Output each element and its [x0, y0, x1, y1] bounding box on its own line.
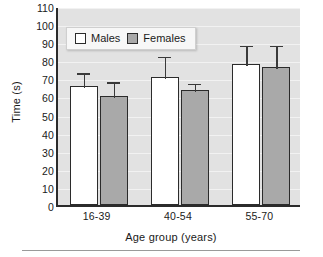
error-bar-cap	[240, 46, 253, 48]
y-tick-label: 40	[16, 130, 54, 140]
y-tick-label: 70	[16, 75, 54, 85]
legend-label-females: Females	[143, 32, 185, 44]
y-tick-label: 10	[16, 184, 54, 194]
bar-females-16-39	[100, 96, 128, 205]
y-tick-label: 50	[16, 112, 54, 122]
error-bar-cap	[270, 46, 283, 48]
error-bar-cap	[107, 82, 120, 84]
y-tick-label: 20	[16, 166, 54, 176]
error-bar-cap	[77, 73, 90, 75]
bar-chart-figure: Time (s) 0102030405060708090100110 16-39…	[0, 0, 323, 257]
error-bar-cap	[158, 57, 171, 59]
y-tick-label: 100	[16, 21, 54, 31]
white-square-icon	[75, 33, 86, 44]
error-bar-line	[246, 46, 248, 66]
error-bar-line	[114, 82, 116, 98]
legend-label-males: Males	[91, 32, 120, 44]
y-tick-label: 80	[16, 57, 54, 67]
y-tick-label: 0	[16, 202, 54, 212]
bar-females-55-70	[262, 67, 290, 205]
x-axis-tick-labels: 16-3940-5455-70	[56, 210, 300, 226]
y-tick-label: 30	[16, 148, 54, 158]
legend-item-males: Males	[75, 32, 120, 44]
footer-divider	[22, 250, 300, 251]
x-axis-title: Age group (years)	[40, 231, 302, 243]
error-bar-line	[165, 57, 167, 79]
bar-males-40-54	[151, 77, 179, 205]
x-tick-label: 40-54	[137, 210, 218, 222]
bar-males-16-39	[70, 86, 98, 205]
bar-females-40-54	[181, 90, 209, 205]
x-tick-label: 16-39	[56, 210, 137, 222]
y-tick-label: 110	[16, 3, 54, 13]
y-tick-label: 90	[16, 39, 54, 49]
legend-item-females: Females	[127, 32, 185, 44]
gray-square-icon	[127, 33, 138, 44]
error-bar-cap	[188, 84, 201, 86]
bar-males-55-70	[232, 64, 260, 205]
x-tick-label: 55-70	[219, 210, 300, 222]
error-bar-line	[276, 46, 278, 69]
error-bar-line	[84, 73, 86, 87]
chart-legend: Males Females	[66, 27, 196, 50]
y-tick-label: 60	[16, 93, 54, 103]
y-axis-tick-labels: 0102030405060708090100110	[14, 0, 54, 213]
bar-group	[221, 8, 302, 205]
